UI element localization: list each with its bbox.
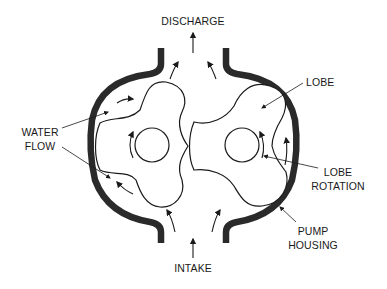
pump-housing-label-line1: PUMP: [298, 225, 329, 237]
water-flow-label-line1: WATER: [21, 126, 59, 138]
pump-housing-leader-line: [280, 207, 296, 222]
lobe-rotation-label-line1: LOBE: [324, 166, 352, 178]
water-flow-arrow-icon: [117, 99, 133, 103]
flow-arrow-icon: [208, 62, 216, 79]
lobe-rotation-label-line2: ROTATION: [311, 180, 365, 192]
pump-housing-label-line2: HOUSING: [288, 239, 338, 251]
left-lobe-hub: [135, 128, 169, 162]
lobe-label: LOBE: [306, 76, 334, 88]
intake-label: INTAKE: [174, 262, 212, 274]
discharge-label: DISCHARGE: [161, 15, 224, 27]
right-lobe-hub: [225, 128, 259, 162]
water-flow-arrow-icon: [117, 182, 133, 194]
lobe-pump-diagram: DISCHARGE INTAKE LOBE WATER FLOW LOBE RO…: [0, 0, 387, 289]
flow-arrow-icon: [212, 210, 220, 232]
water-flow-label-line2: FLOW: [25, 140, 56, 152]
flow-arrow-icon: [167, 210, 175, 232]
flow-arrow-icon: [170, 62, 178, 79]
